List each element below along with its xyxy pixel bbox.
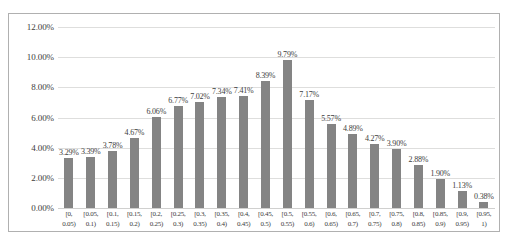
x-axis-tick-label-line: 0.95) bbox=[451, 220, 473, 230]
bar[interactable] bbox=[305, 100, 314, 208]
bar[interactable] bbox=[239, 96, 248, 208]
bar-slot[interactable]: 7.41% bbox=[233, 27, 255, 208]
bar[interactable] bbox=[283, 60, 292, 208]
y-axis-tick-label: 2.00% bbox=[31, 173, 54, 183]
bar-slot[interactable]: 0.38% bbox=[473, 27, 495, 208]
bar[interactable] bbox=[370, 144, 379, 208]
bar[interactable] bbox=[479, 202, 488, 208]
x-axis-tick-label: [0.25,0.3) bbox=[167, 210, 189, 232]
bar[interactable] bbox=[86, 157, 95, 208]
bar[interactable] bbox=[261, 81, 270, 208]
y-axis-tick-label: 10.00% bbox=[27, 52, 54, 62]
x-axis-tick-labels: [0,0.05)[0.05,0.1)[0.1,0.15)[0.15,0.2)[0… bbox=[58, 210, 495, 232]
bar-slot[interactable]: 3.29% bbox=[58, 27, 80, 208]
bar-value-label: 7.34% bbox=[212, 87, 232, 96]
x-axis-tick-label-line: [0.7, bbox=[364, 210, 386, 220]
x-axis-tick-label-line: [0.45, bbox=[255, 210, 277, 220]
bar-slot[interactable]: 7.02% bbox=[189, 27, 211, 208]
bar-value-label: 3.90% bbox=[387, 139, 407, 148]
x-axis-tick-label-line: 0.6) bbox=[298, 220, 320, 230]
x-axis-tick-label-line: [0.95, bbox=[473, 210, 495, 220]
bar-slot[interactable]: 6.06% bbox=[145, 27, 167, 208]
bar-slot[interactable]: 3.78% bbox=[102, 27, 124, 208]
bar-slot[interactable]: 7.34% bbox=[211, 27, 233, 208]
bar-slot[interactable]: 3.39% bbox=[80, 27, 102, 208]
x-axis-tick-label-line: [0.2, bbox=[145, 210, 167, 220]
bar-value-label: 3.29% bbox=[59, 148, 79, 157]
x-axis-tick-label: [0.65,0.7) bbox=[342, 210, 364, 232]
bar-value-label: 1.90% bbox=[430, 169, 450, 178]
x-axis-tick-label-line: 0.7) bbox=[342, 220, 364, 230]
bar-value-label: 5.57% bbox=[321, 114, 341, 123]
gridline bbox=[58, 208, 495, 209]
bar-value-label: 6.06% bbox=[146, 107, 166, 116]
x-axis-tick-label-line: [0.8, bbox=[408, 210, 430, 220]
x-axis-tick-label: [0.45,0.5) bbox=[255, 210, 277, 232]
x-axis-tick-label-line: [0.35, bbox=[211, 210, 233, 220]
bar[interactable] bbox=[174, 106, 183, 208]
bar[interactable] bbox=[458, 191, 467, 208]
x-axis-tick-label-line: [0.5, bbox=[276, 210, 298, 220]
bar-value-label: 8.39% bbox=[256, 71, 276, 80]
bar-value-label: 4.67% bbox=[125, 128, 145, 137]
bar[interactable] bbox=[327, 124, 336, 208]
x-axis-tick-label: [0.3,0.35) bbox=[189, 210, 211, 232]
x-axis-tick-label-line: 0.25) bbox=[145, 220, 167, 230]
x-axis-tick-label-line: 0.9) bbox=[429, 220, 451, 230]
x-axis-tick-label-line: 0.15) bbox=[102, 220, 124, 230]
bar-slot[interactable]: 4.89% bbox=[342, 27, 364, 208]
bar[interactable] bbox=[195, 102, 204, 208]
bar-slot[interactable]: 1.90% bbox=[429, 27, 451, 208]
bar-slot[interactable]: 5.57% bbox=[320, 27, 342, 208]
x-axis-tick-label: [0.9,0.95) bbox=[451, 210, 473, 232]
x-axis-tick-label: [0.6,0.65) bbox=[320, 210, 342, 232]
x-axis-tick-label: [0.5,0.55) bbox=[276, 210, 298, 232]
bar-value-label: 4.89% bbox=[343, 124, 363, 133]
bar-value-label: 7.41% bbox=[234, 86, 254, 95]
bar-slot[interactable]: 9.79% bbox=[276, 27, 298, 208]
x-axis-tick-label-line: [0.85, bbox=[429, 210, 451, 220]
bar-slot[interactable]: 1.13% bbox=[451, 27, 473, 208]
bar[interactable] bbox=[217, 97, 226, 208]
x-axis-tick-label-line: [0.65, bbox=[342, 210, 364, 220]
bar[interactable] bbox=[64, 158, 73, 208]
x-axis-tick-label-line: 0.8) bbox=[386, 220, 408, 230]
x-axis-tick-label-line: 0.35) bbox=[189, 220, 211, 230]
bar-slot[interactable]: 3.90% bbox=[386, 27, 408, 208]
bar-value-label: 3.39% bbox=[81, 147, 101, 156]
bar[interactable] bbox=[108, 151, 117, 208]
x-axis-tick-label-line: 0.5) bbox=[255, 220, 277, 230]
x-axis-tick-label: [0.75,0.8) bbox=[386, 210, 408, 232]
bar-slot[interactable]: 8.39% bbox=[255, 27, 277, 208]
bar[interactable] bbox=[392, 149, 401, 208]
x-axis-tick-label-line: [0.15, bbox=[124, 210, 146, 220]
x-axis-tick-label-line: 0.4) bbox=[211, 220, 233, 230]
bar-slot[interactable]: 6.77% bbox=[167, 27, 189, 208]
bar-value-label: 4.27% bbox=[365, 134, 385, 143]
bar[interactable] bbox=[152, 117, 161, 208]
bar[interactable] bbox=[436, 179, 445, 208]
y-axis-tick-label: 0.00% bbox=[31, 203, 54, 213]
bar-slot[interactable]: 4.67% bbox=[124, 27, 146, 208]
x-axis-tick-label-line: [0.3, bbox=[189, 210, 211, 220]
bar-slot[interactable]: 2.88% bbox=[408, 27, 430, 208]
x-axis-tick-label: [0.2,0.25) bbox=[145, 210, 167, 232]
x-axis-tick-label-line: [0.55, bbox=[298, 210, 320, 220]
bar-value-label: 1.13% bbox=[452, 181, 472, 190]
x-axis-tick-label-line: [0.75, bbox=[386, 210, 408, 220]
x-axis-tick-label-line: [0.1, bbox=[102, 210, 124, 220]
x-axis-tick-label: [0.4,0.45) bbox=[233, 210, 255, 232]
x-axis-tick-label: [0.1,0.15) bbox=[102, 210, 124, 232]
x-axis-tick-label-line: 0.3) bbox=[167, 220, 189, 230]
chart-frame: 12.00%10.00%8.00%6.00%4.00%2.00%0.00% 3.… bbox=[8, 13, 500, 232]
bar[interactable] bbox=[348, 134, 357, 208]
bar-slot[interactable]: 7.17% bbox=[298, 27, 320, 208]
bar[interactable] bbox=[414, 165, 423, 208]
x-axis-tick-label-line: 0.1) bbox=[80, 220, 102, 230]
x-axis-tick-label-line: 0.75) bbox=[364, 220, 386, 230]
bar-slot[interactable]: 4.27% bbox=[364, 27, 386, 208]
bar-value-label: 7.02% bbox=[190, 92, 210, 101]
x-axis-tick-label-line: 0.45) bbox=[233, 220, 255, 230]
x-axis-tick-label-line: 0.05) bbox=[58, 220, 80, 230]
bar[interactable] bbox=[130, 138, 139, 208]
